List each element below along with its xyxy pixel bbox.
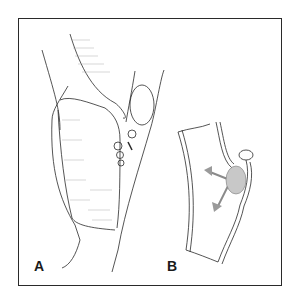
panel-a-hatching <box>62 40 112 220</box>
panel-a-vessel <box>42 34 164 272</box>
panel-b-vessel <box>178 122 253 264</box>
panel-b-shaded-region <box>226 166 246 194</box>
panel-label-a: A <box>34 258 44 274</box>
illustration <box>0 0 300 299</box>
panel-label-b: B <box>167 258 177 274</box>
